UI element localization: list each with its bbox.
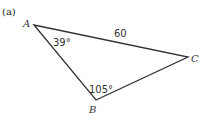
angle-b-value: 105° bbox=[89, 84, 113, 95]
side-ac-length: 60 bbox=[114, 28, 127, 39]
angle-a-value: 39° bbox=[53, 37, 71, 48]
triangle-diagram: (a) A C B 60 39° 105° bbox=[0, 0, 209, 123]
vertex-c-label: C bbox=[191, 53, 199, 64]
vertex-b-label: B bbox=[88, 104, 96, 115]
figure-caption: (a) bbox=[2, 6, 16, 17]
vertex-a-label: A bbox=[22, 18, 30, 29]
